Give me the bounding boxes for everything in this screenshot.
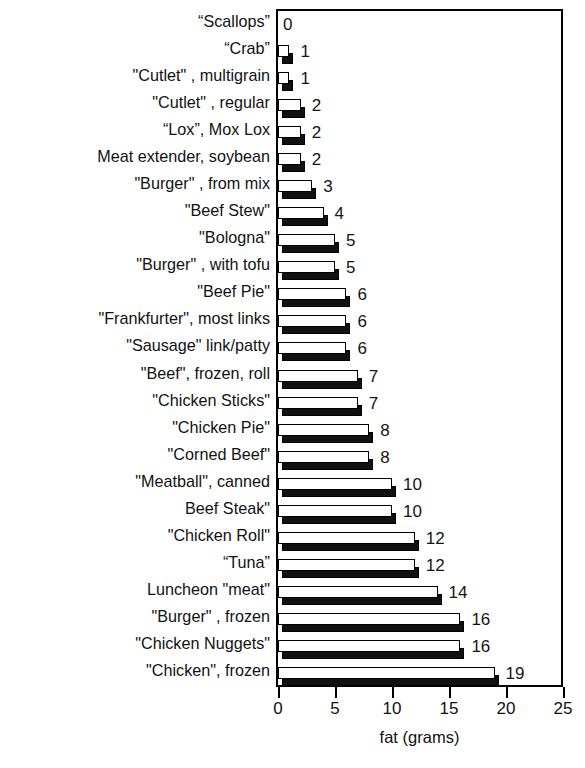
bar-value-label: 5: [346, 258, 355, 278]
bar-face[interactable]: [278, 180, 312, 192]
bar-value-label: 2: [312, 123, 321, 143]
x-axis-tick-label: 0: [261, 699, 295, 719]
bar-face[interactable]: [278, 342, 346, 354]
bar-face[interactable]: [278, 505, 392, 517]
bar-face[interactable]: [278, 315, 346, 327]
bar-row: 3: [278, 177, 563, 204]
bar-row: 16: [278, 637, 563, 664]
bar-face[interactable]: [278, 370, 358, 382]
category-label: “Scallops”: [0, 12, 270, 30]
bar-face[interactable]: [278, 261, 335, 273]
bar-row: 16: [278, 610, 563, 637]
bar-face[interactable]: [278, 613, 460, 625]
category-label: "Bologna": [0, 228, 270, 246]
category-label: "Beef Pie": [0, 282, 270, 300]
bar-face[interactable]: [278, 667, 495, 679]
category-label: "Burger" , from mix: [0, 174, 270, 192]
category-label: "Burger" , frozen: [0, 607, 270, 625]
bar-face[interactable]: [278, 234, 335, 246]
bar-value-label: 1: [300, 42, 309, 62]
category-label: "Chicken Sticks": [0, 391, 270, 409]
category-label: "Chicken Roll": [0, 526, 270, 544]
category-label: "Chicken", frozen: [0, 661, 270, 679]
bar-value-label: 7: [369, 367, 378, 387]
bar-row: 10: [278, 502, 563, 529]
bar-face[interactable]: [278, 559, 415, 571]
bar-value-label: 6: [357, 312, 366, 332]
bar-face[interactable]: [278, 586, 438, 598]
x-axis-tick: [278, 687, 280, 698]
bar-row: 7: [278, 367, 563, 394]
bar-face[interactable]: [278, 397, 358, 409]
bar-face[interactable]: [278, 424, 369, 436]
bar-row: 0: [278, 15, 563, 42]
bar-value-label: 3: [323, 177, 332, 197]
x-axis-tick: [506, 687, 508, 698]
bar-row: 6: [278, 339, 563, 366]
bar-value-label: 7: [369, 394, 378, 414]
bar-value-label: 5: [346, 231, 355, 251]
bar-value-label: 12: [426, 529, 445, 549]
bar-face[interactable]: [278, 153, 301, 165]
category-label: "Burger" , with tofu: [0, 255, 270, 273]
bar-row: 2: [278, 123, 563, 150]
bar-face[interactable]: [278, 451, 369, 463]
bar-row: 2: [278, 150, 563, 177]
bar-face[interactable]: [278, 207, 324, 219]
chart-title: VEGETARIAN CHOICES: [276, 0, 566, 3]
category-label: Meat extender, soybean: [0, 147, 270, 165]
bar-value-label: 12: [426, 556, 445, 576]
bar-row: 7: [278, 394, 563, 421]
category-label-column: “Scallops”“Crab”"Cutlet" , multigrain"Cu…: [0, 9, 270, 685]
bar-value-label: 8: [380, 448, 389, 468]
category-label: "Frankfurter", most links: [0, 309, 270, 327]
category-label: "Chicken Pie": [0, 418, 270, 436]
bar-row: 12: [278, 529, 563, 556]
x-axis-tick: [563, 687, 565, 698]
x-axis-tick-label: 25: [546, 699, 580, 719]
bar-value-label: 4: [335, 204, 344, 224]
bar-value-label: 1: [300, 69, 309, 89]
bar-row: 1: [278, 69, 563, 96]
category-label: "Sausage" link/patty: [0, 336, 270, 354]
bar-face[interactable]: [278, 478, 392, 490]
bar-value-label: 19: [506, 664, 525, 684]
x-axis-tick-label: 10: [375, 699, 409, 719]
bar-row: 5: [278, 231, 563, 258]
x-axis-tick-label: 15: [432, 699, 466, 719]
bar-face[interactable]: [278, 99, 301, 111]
bar-row: 6: [278, 312, 563, 339]
category-label: "Beef", frozen, roll: [0, 364, 270, 382]
category-label: "Beef Stew": [0, 201, 270, 219]
bar-row: 1: [278, 42, 563, 69]
bar-value-label: 14: [449, 583, 468, 603]
bar-value-label: 2: [312, 96, 321, 116]
bar-face[interactable]: [278, 532, 415, 544]
category-label: “Lox”, Mox Lox: [0, 120, 270, 138]
category-label: "Meatball", canned: [0, 472, 270, 490]
category-label: "Chicken Nuggets": [0, 634, 270, 652]
category-label: “Crab”: [0, 39, 270, 57]
category-label: Luncheon "meat": [0, 580, 270, 598]
bar-face[interactable]: [278, 288, 346, 300]
bar-face[interactable]: [278, 640, 460, 652]
bar-value-label: 0: [283, 15, 292, 35]
x-axis-title: fat (grams): [276, 728, 563, 747]
bar-value-label: 10: [403, 475, 422, 495]
bar-row: 4: [278, 204, 563, 231]
bar-row: 2: [278, 96, 563, 123]
bar-value-label: 16: [471, 610, 490, 630]
bar-row: 12: [278, 556, 563, 583]
bar-row: 8: [278, 448, 563, 475]
bar-value-label: 6: [357, 285, 366, 305]
bar-face[interactable]: [278, 72, 289, 84]
category-label: "Cutlet" , regular: [0, 93, 270, 111]
bar-value-label: 16: [471, 637, 490, 657]
x-axis-tick-label: 5: [318, 699, 352, 719]
x-axis-tick: [392, 687, 394, 698]
category-label: “Tuna”: [0, 553, 270, 571]
bar-face[interactable]: [278, 45, 289, 57]
bar-row: 5: [278, 258, 563, 285]
bar-row: 14: [278, 583, 563, 610]
bar-face[interactable]: [278, 126, 301, 138]
